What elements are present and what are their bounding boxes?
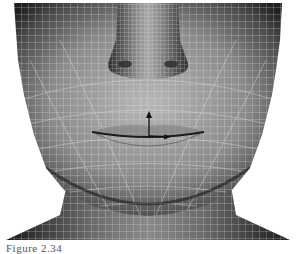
figure-caption: Figure 2.34 xyxy=(6,243,62,254)
nose-mesh xyxy=(108,3,188,79)
